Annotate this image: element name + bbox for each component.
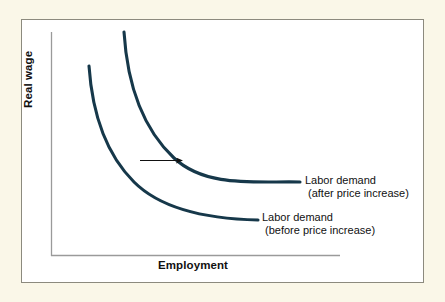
labor-demand-curve-before bbox=[89, 66, 258, 220]
labor-demand-curve-after bbox=[124, 32, 300, 182]
chart-canvas bbox=[0, 0, 445, 302]
curve-label-after-line2: (after price increase) bbox=[305, 187, 409, 200]
y-axis-title: Real wage bbox=[22, 51, 34, 108]
curve-label-after-price-increase: Labor demand (after price increase) bbox=[305, 174, 409, 199]
curve-label-before-line2: (before price increase) bbox=[262, 224, 375, 237]
x-axis-title: Employment bbox=[158, 259, 228, 271]
curve-label-before-line1: Labor demand bbox=[262, 211, 333, 223]
labor-demand-shift-figure: Real wage Employment Labor demand (after… bbox=[0, 0, 445, 302]
curve-label-before-price-increase: Labor demand (before price increase) bbox=[262, 211, 375, 236]
curve-label-after-line1: Labor demand bbox=[305, 174, 376, 186]
